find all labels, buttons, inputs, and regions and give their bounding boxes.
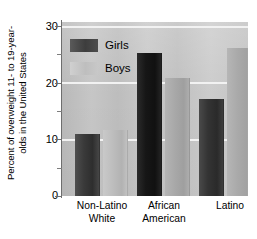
bar-girls-latino [199, 99, 224, 196]
y-tick-major-30 [55, 26, 62, 27]
bar-boys-non-latino-white [103, 130, 128, 196]
bar-boys-latino [227, 48, 248, 196]
bar-boys-african-american [165, 78, 190, 196]
gridline-30 [62, 26, 248, 28]
legend-item-boys: Boys [70, 59, 131, 77]
legend-item-girls: Girls [70, 36, 131, 54]
x-tick-label-latino: Latino [192, 200, 257, 213]
y-axis-title-line-1: Percent of overweight 11- to 19-year- [5, 26, 17, 180]
bar-girls-non-latino-white [75, 134, 100, 196]
legend: Girls Boys [70, 36, 131, 82]
plot-area: Girls Boys [62, 22, 248, 196]
bar-chart-figure: Percent of overweight 11- to 19-year- ol… [0, 0, 257, 239]
bar-girls-african-american [137, 53, 162, 196]
y-tick-major-0 [55, 196, 62, 197]
y-axis-title: Percent of overweight 11- to 19-year- ol… [0, 0, 34, 206]
legend-label-boys: Boys [105, 62, 131, 74]
y-tick-major-20 [55, 83, 62, 84]
x-axis-tick-labels: Non-Latino White African American Latino [62, 200, 248, 239]
y-axis-title-line-2: olds in the United States [17, 26, 29, 180]
legend-label-girls: Girls [105, 39, 129, 51]
legend-swatch-girls-icon [70, 39, 98, 52]
y-axis-tick-labels: 30 20 10 0 [34, 0, 58, 239]
legend-swatch-boys-icon [70, 62, 98, 75]
y-tick-major-10 [55, 139, 62, 140]
